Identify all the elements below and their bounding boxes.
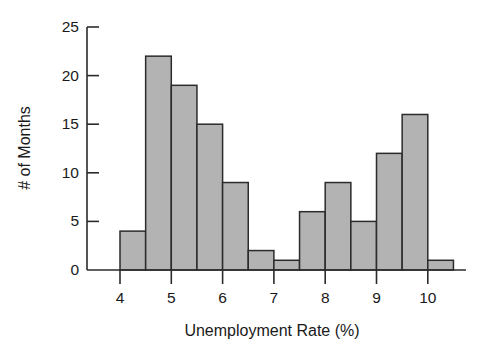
histogram-bar — [325, 183, 351, 270]
histogram-bar — [146, 56, 172, 270]
x-axis-tick-label: 7 — [270, 289, 279, 306]
histogram-bar — [274, 260, 300, 270]
histogram-bar — [300, 212, 326, 270]
histogram-bar — [120, 231, 146, 270]
bars-group — [120, 56, 453, 270]
x-axis-tick-label: 4 — [116, 289, 125, 306]
histogram-bar — [223, 183, 249, 270]
x-axis-title: Unemployment Rate (%) — [184, 322, 359, 339]
x-ticks-group: 45678910 — [116, 270, 437, 306]
histogram-bar — [402, 114, 428, 270]
histogram-bar — [248, 251, 274, 270]
histogram-bar — [171, 85, 197, 270]
x-axis-tick-label: 6 — [218, 289, 227, 306]
histogram-plot-area: 0510152025 45678910 # of Months Unemploy… — [0, 0, 482, 362]
x-axis-tick-label: 5 — [167, 289, 176, 306]
x-axis-tick-label: 9 — [372, 289, 381, 306]
y-axis-tick-label: 25 — [62, 18, 79, 35]
y-axis-tick-label: 0 — [70, 261, 79, 278]
x-axis-tick-label: 8 — [321, 289, 330, 306]
histogram-chart: 0510152025 45678910 # of Months Unemploy… — [0, 0, 482, 362]
y-axis-tick-label: 5 — [70, 212, 79, 229]
y-ticks-group: 0510152025 — [62, 18, 99, 278]
y-axis-tick-label: 15 — [62, 115, 79, 132]
histogram-bar — [351, 221, 377, 270]
y-axis-tick-label: 10 — [62, 164, 80, 181]
histogram-bar — [428, 260, 454, 270]
y-axis-title: # of Months — [16, 106, 33, 190]
x-axis-tick-label: 10 — [419, 289, 437, 306]
histogram-bar — [197, 124, 223, 270]
histogram-bar — [377, 153, 403, 270]
y-axis-tick-label: 20 — [62, 67, 80, 84]
